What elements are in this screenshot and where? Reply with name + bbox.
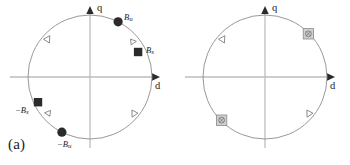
label-neg-bu-base: −B: [57, 139, 68, 149]
label-neg-bs-base: −B: [15, 105, 26, 115]
panel-a-diagram: [0, 0, 175, 165]
panel-a-label-neg-bu: −Bu: [57, 139, 71, 150]
panel-a-label-bu: Bu: [124, 12, 133, 23]
y-axis-arrowhead: [86, 6, 93, 14]
panel-b-x-axis-label: d: [330, 80, 335, 91]
figure-root: q d Bu Bs −Bs −Bu (a): [0, 0, 350, 165]
marker-open-triangle-upper-left[interactable]: [219, 36, 225, 43]
panel-a-label-bs: Bs: [146, 45, 154, 56]
marker-open-triangle-lower-left-inner[interactable]: [45, 110, 51, 116]
marker-open-triangle-lower-right[interactable]: [132, 110, 138, 117]
marker-bu-filled-circle[interactable]: [114, 17, 123, 26]
label-bs-sub: s: [151, 48, 154, 56]
label-bu-sub: u: [129, 15, 133, 23]
label-neg-bs-sub: s: [26, 108, 29, 116]
marker-grey-square-crossed-upper-right[interactable]: [303, 29, 313, 39]
marker-neg-bu-filled-circle[interactable]: [57, 128, 66, 137]
panel-a-x-axis-label: d: [155, 80, 160, 91]
panel-a-y-axis-label: q: [97, 2, 102, 13]
panel-a-caption: (a): [8, 136, 25, 153]
panel-b-y-axis-label: q: [272, 2, 277, 13]
marker-bs-filled-square[interactable]: [134, 48, 142, 56]
marker-open-triangle-upper-left[interactable]: [44, 36, 50, 43]
panel-a-axes: [10, 6, 160, 148]
marker-grey-square-crossed-lower-left[interactable]: [216, 115, 226, 125]
panel-b: q d (b): [175, 0, 350, 165]
y-axis-arrowhead: [261, 6, 268, 14]
panel-a: q d Bu Bs −Bs −Bu (a): [0, 0, 175, 165]
marker-open-triangle-upper-right-inner[interactable]: [131, 39, 137, 45]
label-neg-bu-sub: u: [68, 142, 72, 150]
marker-neg-bs-filled-square[interactable]: [34, 98, 42, 106]
panel-a-label-neg-bs: −Bs: [15, 105, 29, 116]
panel-b-axes: [185, 6, 335, 148]
marker-open-triangle-lower-right[interactable]: [307, 110, 313, 117]
panel-b-diagram: [175, 0, 350, 165]
